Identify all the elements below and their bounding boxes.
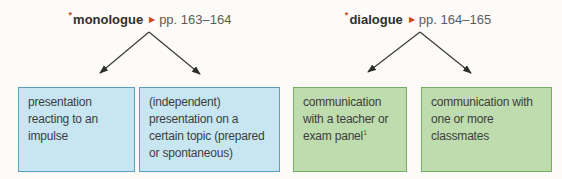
node-communication-classmates: communication with one or more classmate… (421, 87, 552, 172)
node-text: communication with a teacher or exam pan… (303, 95, 388, 143)
node-text: presentation reacting to an impulse (28, 95, 98, 143)
footnote-marker: 1 (363, 128, 367, 137)
page-ref-arrow-icon: ▶ (409, 15, 415, 24)
arrow-monologue-right (149, 32, 200, 74)
monologue-term-label: monologue (73, 12, 143, 27)
arrow-dialogue-left (368, 32, 420, 72)
asterisk-marker: * (345, 10, 349, 20)
dialogue-page-reference: pp. 164–165 (419, 12, 491, 27)
page-ref-arrow-icon: ▶ (149, 15, 155, 24)
monologue-page-reference: pp. 163–164 (159, 12, 231, 27)
node-independent-presentation: (independent) presentation on a certain … (139, 87, 280, 172)
arrow-monologue-left (100, 32, 149, 73)
dialogue-term-label: dialogue (349, 12, 402, 27)
monologue-header: *monologue▶pp. 163–164 (69, 10, 232, 27)
tree-diagram: *monologue▶pp. 163–164 *dialogue▶pp. 164… (0, 0, 562, 179)
asterisk-marker: * (69, 10, 73, 20)
node-communication-teacher: communication with a teacher or exam pan… (293, 87, 407, 172)
node-presentation-impulse: presentation reacting to an impulse (18, 87, 135, 172)
node-text: (independent) presentation on a certain … (149, 95, 264, 160)
dialogue-header: *dialogue▶pp. 164–165 (345, 10, 491, 27)
arrow-dialogue-right (420, 32, 471, 73)
node-text: communication with one or more classmate… (431, 95, 533, 143)
